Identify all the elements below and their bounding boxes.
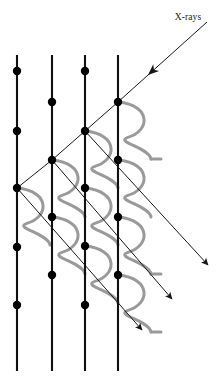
diagram-canvas: X-rays bbox=[0, 0, 223, 377]
lattice-atom bbox=[81, 301, 89, 309]
ray-segment-a bbox=[85, 102, 118, 131]
lattice-atom bbox=[81, 242, 89, 250]
xray-diffraction-diagram: X-rays bbox=[0, 0, 223, 377]
lattice-atom bbox=[48, 271, 56, 279]
lattice-atom bbox=[114, 156, 122, 164]
lattice-atom bbox=[13, 184, 21, 192]
incident-x-ray-beam bbox=[118, 22, 207, 102]
wavefront-3 bbox=[118, 160, 151, 217]
wavefront-9 bbox=[85, 246, 118, 303]
wavefront-1 bbox=[118, 102, 151, 159]
lattice-atom-group bbox=[13, 67, 122, 309]
lattice-atom bbox=[48, 213, 56, 221]
wavefront-6 bbox=[118, 217, 151, 274]
ray-segment-b bbox=[52, 131, 85, 160]
wavefront-8 bbox=[52, 217, 85, 274]
lattice-atom bbox=[114, 271, 122, 279]
lattice-atom bbox=[48, 156, 56, 164]
lattice-atom bbox=[81, 127, 89, 135]
lattice-atom bbox=[13, 243, 21, 251]
lattice-atom bbox=[81, 67, 89, 75]
lattice-atom bbox=[13, 67, 21, 75]
lattice-atom bbox=[13, 301, 21, 309]
wavefront-10 bbox=[118, 275, 151, 332]
lattice-atom bbox=[114, 213, 122, 221]
lattice-atom bbox=[13, 127, 21, 135]
xray-ray-group bbox=[17, 22, 208, 330]
wavefront-4 bbox=[52, 160, 85, 217]
wavefront-7 bbox=[17, 188, 50, 245]
scattered-wavefront-group bbox=[17, 102, 161, 332]
lattice-atom bbox=[114, 98, 122, 106]
xray-label: X-rays bbox=[175, 12, 202, 22]
wavefront-2 bbox=[85, 131, 118, 188]
ray-segment-c bbox=[17, 160, 52, 188]
lattice-atom bbox=[81, 184, 89, 192]
wavefront-5 bbox=[85, 188, 118, 245]
lattice-plane-group bbox=[17, 55, 118, 371]
lattice-atom bbox=[48, 98, 56, 106]
